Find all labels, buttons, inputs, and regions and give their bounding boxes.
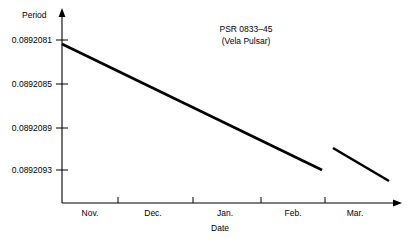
data-line-after-glitch: [333, 148, 389, 181]
y-tick-label-2: 0.0892089: [0, 124, 52, 133]
x-tick-label-mar: Mar.: [331, 209, 379, 218]
x-tick-label-nov: Nov.: [66, 209, 114, 218]
y-axis-title: Period: [22, 11, 47, 20]
y-axis-arrow-icon: [59, 8, 66, 17]
data-line-before-glitch: [62, 44, 322, 170]
y-tick-label-3: 0.0892093: [0, 166, 52, 175]
x-axis-arrow-icon: [393, 200, 402, 207]
x-tick-label-dec: Dec.: [129, 209, 177, 218]
chart-figure: Period 0.0892081 0.0892085 0.0892089 0.0…: [0, 0, 407, 243]
annotation-pulsar-alias: (Vela Pulsar): [186, 37, 306, 46]
chart-annotation: PSR 0833–45 (Vela Pulsar): [186, 25, 306, 48]
y-tick-label-0: 0.0892081: [0, 36, 52, 45]
y-tick-label-1: 0.0892085: [0, 80, 52, 89]
annotation-pulsar-name: PSR 0833–45: [186, 25, 306, 34]
x-tick-label-jan: Jan.: [201, 209, 249, 218]
x-tick-label-feb: Feb.: [269, 209, 317, 218]
x-axis-title: Date: [190, 224, 250, 233]
